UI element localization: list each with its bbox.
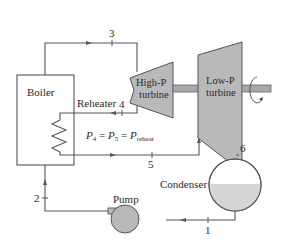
state-label-1: 1 [205, 224, 211, 236]
flow-arrow-4 [110, 111, 116, 115]
pressure-equation: P4 = P5 = Preheat [85, 129, 154, 143]
state-label-6: 6 [240, 142, 246, 154]
state-label-4: 4 [119, 98, 125, 110]
pipe-state-1 [166, 211, 235, 220]
condenser-liquid [209, 184, 261, 212]
shaft-output [242, 85, 271, 92]
condenser-label: Condenser [160, 178, 207, 190]
pipe-state-2 [45, 165, 108, 211]
pipe-state-3 [45, 43, 137, 75]
reheat-rankine-diagram: 3 Boiler Reheater 4 P4 = P5 = Preheat 5 … [0, 0, 287, 244]
hp-turbine-label-2: turbine [139, 89, 169, 100]
flow-arrow-3 [86, 41, 92, 45]
state-label-3: 3 [109, 27, 115, 39]
state-label-5: 5 [148, 158, 154, 170]
flow-arrow-2 [43, 179, 47, 185]
flow-arrow-5a [110, 153, 116, 157]
state-label-2: 2 [34, 192, 40, 204]
reheater-label: Reheater [77, 97, 116, 109]
pump-label: Pump [113, 193, 139, 205]
lp-turbine-label-2: turbine [206, 87, 236, 98]
boiler-label: Boiler [27, 86, 55, 98]
shaft-middle [173, 85, 199, 92]
lp-turbine-label-1: Low-P [206, 75, 235, 86]
hp-turbine-label-1: High-P [136, 77, 166, 88]
lp-turbine [198, 42, 242, 172]
pump [111, 205, 139, 233]
flow-arrow-1 [180, 218, 186, 222]
